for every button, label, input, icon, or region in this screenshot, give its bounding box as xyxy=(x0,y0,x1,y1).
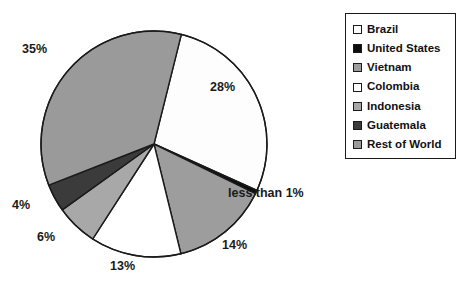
legend-label-united-states: United States xyxy=(367,43,441,55)
legend-item-rest-of-world[interactable]: Rest of World xyxy=(353,135,455,154)
pie-slices xyxy=(41,31,267,257)
legend-label-brazil: Brazil xyxy=(367,24,398,36)
slice-label-vietnam: 14% xyxy=(222,238,247,252)
legend-item-vietnam[interactable]: Vietnam xyxy=(353,58,455,77)
legend-swatch-rest-of-world xyxy=(353,140,362,149)
legend-swatch-brazil xyxy=(353,25,362,34)
legend-item-guatemala[interactable]: Guatemala xyxy=(353,116,455,135)
legend-swatch-colombia xyxy=(353,83,362,92)
legend-item-indonesia[interactable]: Indonesia xyxy=(353,97,455,116)
legend-label-colombia: Colombia xyxy=(367,81,419,93)
slice-label-brazil: 28% xyxy=(210,80,235,94)
legend-item-brazil[interactable]: Brazil xyxy=(353,20,455,39)
slice-label-rest-of-world: 35% xyxy=(22,42,47,56)
legend-swatch-vietnam xyxy=(353,63,362,72)
slice-label-colombia: 13% xyxy=(110,259,135,273)
legend-swatch-guatemala xyxy=(353,121,362,130)
legend-label-guatemala: Guatemala xyxy=(367,120,426,132)
legend-label-rest-of-world: Rest of World xyxy=(367,139,442,151)
pie-svg xyxy=(0,0,340,290)
pie-chart-figure: 28% less than 1% 14% 13% 6% 4% 35% Brazi… xyxy=(0,0,462,290)
legend-label-vietnam: Vietnam xyxy=(367,62,412,74)
legend-item-united-states[interactable]: United States xyxy=(353,39,455,58)
slice-label-indonesia: 6% xyxy=(37,230,55,244)
legend-swatch-united-states xyxy=(353,44,362,53)
pie-plot-area: 28% less than 1% 14% 13% 6% 4% 35% xyxy=(0,0,340,290)
legend-item-colombia[interactable]: Colombia xyxy=(353,78,455,97)
legend-box: Brazil United States Vietnam Colombia In… xyxy=(345,13,456,159)
legend-swatch-indonesia xyxy=(353,102,362,111)
slice-label-united-states: less than 1% xyxy=(228,186,304,200)
legend-label-indonesia: Indonesia xyxy=(367,101,421,113)
slice-label-guatemala: 4% xyxy=(12,198,30,212)
